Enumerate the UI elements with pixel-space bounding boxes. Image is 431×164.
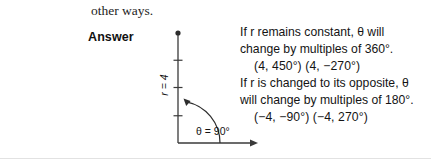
point-marker [175, 30, 180, 35]
continuation-text: other ways. [91, 3, 153, 19]
page-canvas: other ways. Answer r = 4 [0, 0, 431, 164]
explanation-block: If r remains constant, θ will change by … [240, 24, 430, 126]
explanation-line: If r remains constant, θ will [240, 24, 430, 41]
explanation-line-coordinates: (4, 450°) (4, −270°) [240, 58, 430, 75]
angle-label: θ = 90° [196, 125, 230, 137]
explanation-line: change by multiples of 360°. [240, 41, 430, 58]
radius-label: r = 4 [158, 74, 170, 95]
polar-axis-arrowhead [250, 140, 258, 147]
explanation-line: If r is changed to its opposite, θ [240, 75, 430, 92]
answer-heading: Answer [88, 30, 134, 44]
explanation-line-coordinates: (−4, −90°) (−4, 270°) [240, 109, 430, 126]
page-divider [0, 158, 431, 159]
explanation-line: will change by multiples of 180°. [240, 92, 430, 109]
angle-arc-arrowhead [184, 99, 191, 106]
